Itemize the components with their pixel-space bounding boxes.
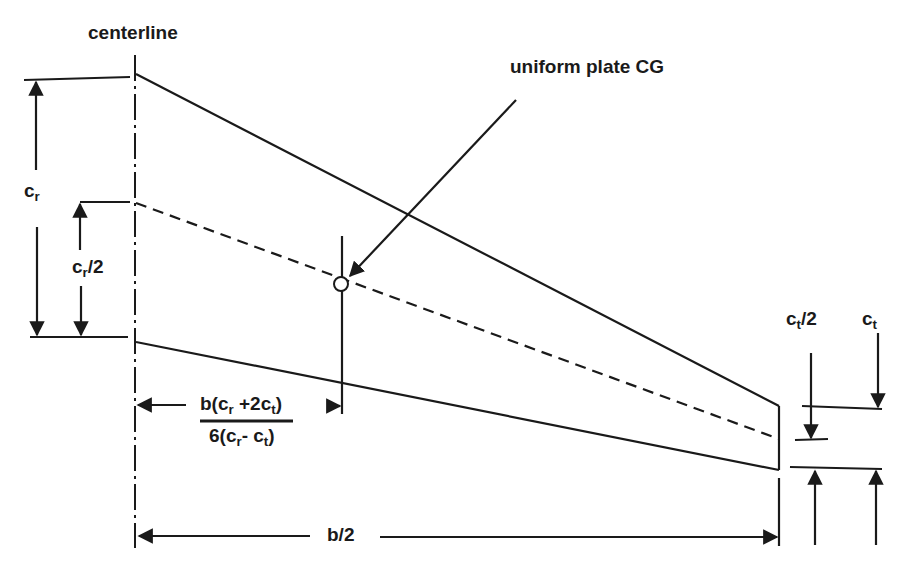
- centerline-label: centerline: [88, 22, 178, 44]
- semispan-label: b/2: [327, 524, 354, 546]
- root-half-chord-label: cr/2: [72, 256, 104, 280]
- cg-annotation-label: uniform plate CG: [510, 56, 664, 78]
- leading-edge: [136, 74, 779, 406]
- wing-planform-diagram: [0, 0, 902, 581]
- cg-marker: [334, 277, 348, 291]
- tip-half-chord-label: ct/2: [786, 308, 817, 332]
- tip-chord-label: ct: [862, 308, 877, 332]
- cg-formula-numerator: b(cr +2ct): [200, 393, 282, 417]
- cg-formula-denominator: 6(cr- ct): [209, 425, 275, 449]
- root-chord-label: cr: [24, 180, 40, 204]
